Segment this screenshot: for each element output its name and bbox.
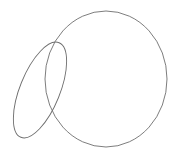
overlapping-shapes-diagram: [0, 0, 180, 155]
small-ellipse: [2, 35, 77, 145]
large-circle: [45, 11, 167, 147]
